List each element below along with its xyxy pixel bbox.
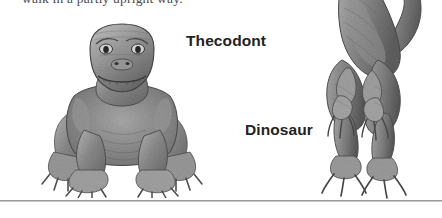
label-thecodont: Thecodont xyxy=(186,32,266,50)
figure-page: walk in a partly upright way. xyxy=(0,0,442,218)
dinosaur-illustration xyxy=(316,0,438,199)
label-dinosaur: Dinosaur xyxy=(245,121,313,139)
thecodont-illustration xyxy=(40,18,208,198)
horizontal-rule xyxy=(0,200,442,202)
